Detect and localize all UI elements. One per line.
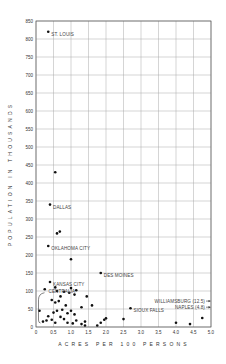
x-axis-ticks: 00.51.01.52.02.53.03.54.04.55.0 <box>35 330 215 335</box>
data-point <box>57 300 60 303</box>
data-point <box>75 289 78 292</box>
data-point <box>189 323 192 326</box>
data-point <box>45 319 48 322</box>
point-label: KANSAS CITY <box>53 282 84 287</box>
data-point <box>70 310 73 313</box>
point-label: WILLIAMSBURG (12.5) <box>155 299 206 304</box>
x-tick-label: 5.0 <box>208 330 215 335</box>
data-point <box>80 306 83 309</box>
point-label: ST. LOUIS <box>51 32 74 37</box>
data-point <box>175 321 178 324</box>
data-point <box>129 307 132 310</box>
data-point <box>91 304 94 307</box>
data-point <box>201 317 204 320</box>
arrow-head-icon <box>209 300 211 302</box>
annotations: CENTRALIA <box>39 289 77 323</box>
y-axis-ticks: 0501001502002503003504004505005506006507… <box>25 19 33 330</box>
data-point <box>70 258 73 261</box>
data-point <box>42 320 45 323</box>
x-tick-label: 3.5 <box>155 330 162 335</box>
y-tick-label: 700 <box>25 73 33 78</box>
y-tick-label: 100 <box>25 289 33 294</box>
y-tick-label: 0 <box>30 325 33 330</box>
x-axis-title: ACRES PER 100 PERSONS <box>58 341 190 347</box>
y-tick-label: 850 <box>25 19 33 24</box>
x-tick-label: 2.0 <box>103 330 110 335</box>
y-axis-title: POPULATION IN THOUSANDS <box>7 102 13 247</box>
data-point <box>49 281 52 284</box>
data-point <box>56 310 59 313</box>
bracket-icon <box>39 293 45 323</box>
y-tick-label: 800 <box>25 37 33 42</box>
data-point <box>43 288 46 291</box>
point-labels: ST. LOUISDALLASOKLAHOMA CITYKANSAS CITYD… <box>51 32 210 313</box>
data-point <box>47 31 50 34</box>
y-tick-label: 500 <box>25 145 33 150</box>
data-point <box>96 324 99 327</box>
x-tick-label: 4.5 <box>190 330 197 335</box>
data-point <box>73 313 76 316</box>
data-point <box>59 295 62 298</box>
y-tick-label: 150 <box>25 271 33 276</box>
data-point <box>66 312 69 315</box>
annotation-label: CENTRALIA <box>49 289 77 294</box>
arrow-head-icon <box>209 306 211 308</box>
y-tick-label: 600 <box>25 109 33 114</box>
x-tick-label: 3.0 <box>138 330 145 335</box>
y-tick-label: 550 <box>25 127 33 132</box>
y-tick-label: 750 <box>25 55 33 60</box>
data-point <box>54 321 57 324</box>
data-point <box>80 323 83 326</box>
point-label: SIOUX FALLS <box>134 308 164 313</box>
data-point <box>84 320 87 323</box>
x-tick-label: 0 <box>35 330 38 335</box>
data-point <box>75 319 78 322</box>
y-tick-label: 250 <box>25 235 33 240</box>
data-point <box>47 245 50 248</box>
y-tick-label: 300 <box>25 217 33 222</box>
data-point <box>122 318 125 321</box>
data-point <box>56 232 59 235</box>
data-point <box>66 321 69 324</box>
data-point <box>54 171 57 174</box>
point-label: DALLAS <box>53 205 71 210</box>
y-tick-label: 200 <box>25 253 33 258</box>
data-point <box>47 315 50 318</box>
y-tick-label: 650 <box>25 91 33 96</box>
data-point <box>52 311 55 314</box>
y-tick-label: 350 <box>25 199 33 204</box>
x-tick-label: 2.5 <box>120 330 127 335</box>
data-point <box>99 321 102 324</box>
data-point <box>105 317 108 320</box>
data-point <box>63 318 66 321</box>
data-point <box>64 304 67 307</box>
x-tick-label: 4.0 <box>173 330 180 335</box>
point-label: DES MOINES <box>104 273 134 278</box>
data-point <box>59 230 62 233</box>
scatter-chart: 00.51.01.52.02.53.03.54.04.55.0 05010015… <box>0 0 226 364</box>
x-tick-label: 1.0 <box>68 330 75 335</box>
y-tick-label: 50 <box>28 307 34 312</box>
data-point <box>99 272 102 275</box>
data-point <box>50 319 53 322</box>
data-point <box>59 316 62 319</box>
x-tick-label: 1.5 <box>85 330 92 335</box>
data-point <box>61 308 64 311</box>
x-tick-label: 0.5 <box>50 330 57 335</box>
data-point <box>71 322 74 325</box>
data-point <box>84 324 87 327</box>
data-point <box>54 301 57 304</box>
point-label: OKLAHOMA CITY <box>51 246 90 251</box>
data-point <box>85 295 88 298</box>
data-point <box>50 299 53 302</box>
y-tick-label: 400 <box>25 181 33 186</box>
data-point <box>49 203 52 206</box>
y-tick-label: 450 <box>25 163 33 168</box>
point-label: NAPLES (4.8) <box>175 305 205 310</box>
